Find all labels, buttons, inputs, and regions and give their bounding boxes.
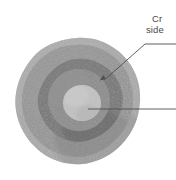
callout-crack-line2: side bbox=[146, 25, 164, 36]
cross-section-figure: Cr side bbox=[0, 0, 176, 180]
callout-label-crack: Cr side bbox=[152, 14, 164, 35]
callout-crack-line1: Cr bbox=[152, 14, 164, 25]
